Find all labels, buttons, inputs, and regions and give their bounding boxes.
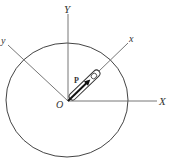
label-Y: Y <box>64 3 72 15</box>
tube-icon <box>66 69 102 104</box>
rotating-frame-diagram: Y X x y O P <box>0 0 171 166</box>
label-x: x <box>128 33 134 44</box>
label-P: P <box>74 76 79 85</box>
label-y: y <box>0 35 6 46</box>
diagram-canvas: Y X x y O P <box>0 0 171 166</box>
label-X: X <box>158 95 167 107</box>
y-axis-rotated <box>8 45 68 101</box>
label-origin: O <box>56 99 63 110</box>
